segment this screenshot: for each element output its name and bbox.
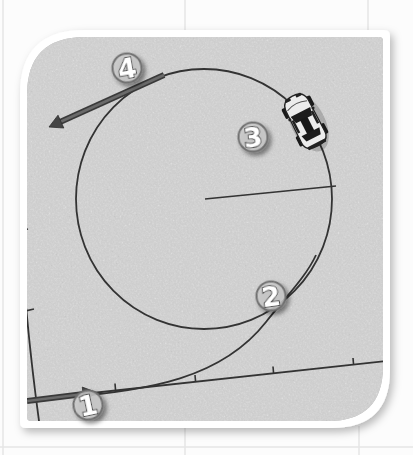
maneuver-diagram: 1 2 3 4 (0, 0, 413, 455)
tick-mark (195, 375, 196, 382)
tick-mark (273, 367, 274, 374)
tick-mark (353, 358, 354, 365)
marker-label-3: 3 (242, 121, 264, 154)
tick-mark (115, 384, 116, 391)
asphalt-texture (27, 37, 383, 421)
diagram-canvas: 1 2 3 4 (0, 0, 413, 455)
